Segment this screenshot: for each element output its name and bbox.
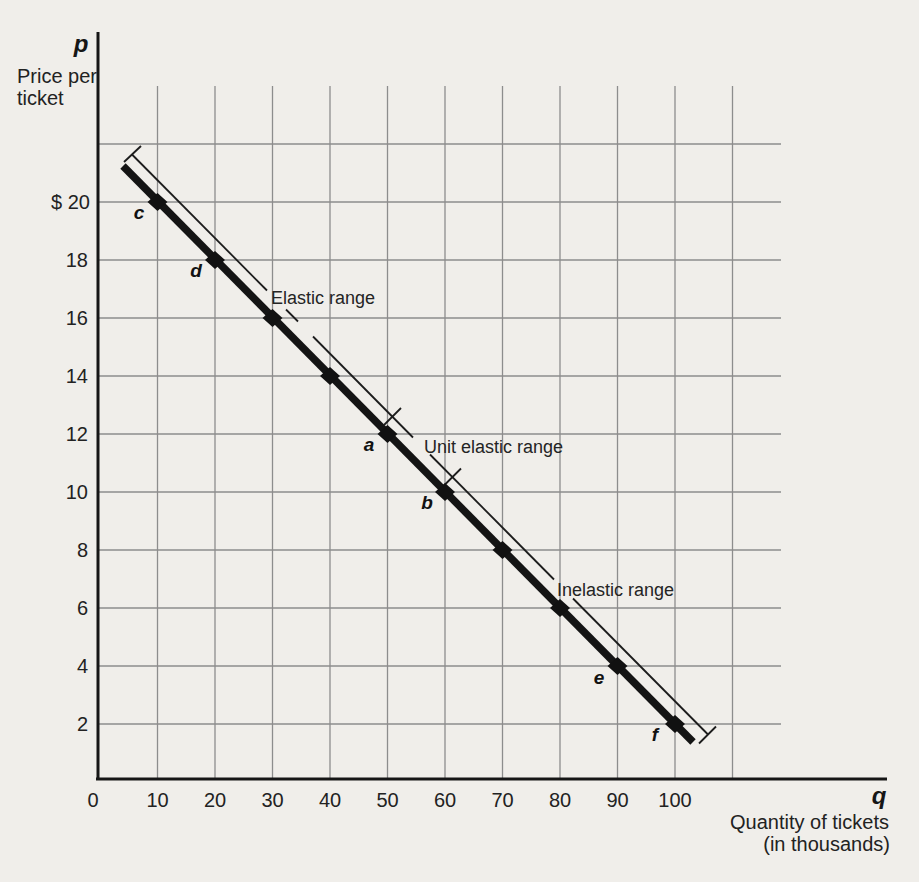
y-tick-label: 6 xyxy=(77,597,88,619)
y-axis-symbol: p xyxy=(73,30,89,57)
point-label-a: a xyxy=(364,434,375,455)
x-tick-label: 60 xyxy=(434,789,456,811)
y-tick-label: $ 20 xyxy=(51,191,90,213)
y-tick-label: 16 xyxy=(66,307,88,329)
x-tick-label: 50 xyxy=(376,789,398,811)
y-tick-label: 8 xyxy=(77,539,88,561)
unit-elastic-range-label: Unit elastic range xyxy=(424,437,563,457)
x-axis-title-line1: Quantity of tickets xyxy=(730,811,889,833)
x-tick-label: 80 xyxy=(549,789,571,811)
x-tick-label: 90 xyxy=(606,789,628,811)
x-tick-label: 10 xyxy=(146,789,168,811)
inelastic-range-label: Inelastic range xyxy=(557,580,674,600)
y-tick-label: 18 xyxy=(66,249,88,271)
y-tick-label: 4 xyxy=(77,655,88,677)
demand-elasticity-chart: c d a b e f Elastic range Unit elastic r… xyxy=(0,0,919,882)
x-tick-label: 20 xyxy=(204,789,226,811)
point-label-e: e xyxy=(594,667,605,688)
scanned-chart-page: c d a b e f Elastic range Unit elastic r… xyxy=(0,0,919,882)
x-tick-label: 40 xyxy=(319,789,341,811)
y-tick-label: 2 xyxy=(77,713,88,735)
x-axis-title-line2: (in thousands) xyxy=(763,833,890,855)
y-axis-title-line2: ticket xyxy=(17,87,64,109)
y-tick-label: 12 xyxy=(66,423,88,445)
point-label-b: b xyxy=(421,492,433,513)
y-tick-label: 10 xyxy=(66,481,88,503)
y-axis-title-line1: Price per xyxy=(17,65,97,87)
point-label-c: c xyxy=(134,202,145,223)
y-tick-label: 14 xyxy=(66,365,88,387)
x-tick-label: 30 xyxy=(261,789,283,811)
x-tick-label: 70 xyxy=(491,789,513,811)
point-label-d: d xyxy=(190,260,202,281)
x-axis-symbol: q xyxy=(872,782,887,809)
x-tick-label: 100 xyxy=(658,789,691,811)
x-tick-label: 0 xyxy=(87,789,98,811)
elastic-range-label: Elastic range xyxy=(271,288,375,308)
